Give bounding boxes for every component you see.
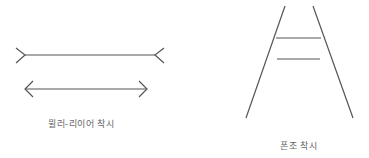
muller-lyer-fins-out-line xyxy=(16,48,164,63)
converging-line-left xyxy=(246,6,285,118)
fin-left xyxy=(16,48,25,63)
muller-lyer-arrows-line xyxy=(25,81,147,97)
fin-right xyxy=(155,48,164,63)
muller-lyer-label: 뮐러-리이어 착시 xyxy=(48,117,114,130)
illusions-diagram xyxy=(0,0,369,158)
ponzo-figure xyxy=(246,6,353,118)
muller-lyer-figure xyxy=(16,48,164,97)
ponzo-label: 폰조 착시 xyxy=(280,139,317,152)
converging-line-right xyxy=(313,6,353,118)
